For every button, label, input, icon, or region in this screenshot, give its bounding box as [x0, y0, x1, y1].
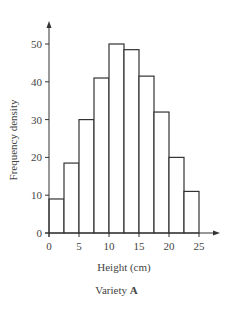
- histogram-bar: [79, 120, 94, 233]
- histogram-bar: [64, 163, 79, 233]
- histogram-bar: [169, 157, 184, 233]
- histogram-chart: 010203040500510152025 Height (cm) Freque…: [0, 0, 233, 318]
- histogram-bar: [109, 44, 124, 233]
- x-tick-label: 10: [104, 240, 116, 252]
- y-tick-label: 30: [31, 114, 43, 126]
- caption-variety-letter: A: [130, 284, 138, 296]
- histogram-bar: [124, 50, 139, 233]
- y-tick-label: 0: [37, 227, 43, 239]
- y-tick-label: 40: [31, 76, 43, 88]
- figure-caption: Variety A: [0, 284, 233, 296]
- x-axis-arrow-icon: [213, 231, 220, 236]
- x-tick-label: 5: [76, 240, 82, 252]
- histogram-bar: [184, 191, 199, 233]
- x-tick-label: 25: [194, 240, 206, 252]
- caption-text: Variety: [95, 284, 130, 296]
- x-tick-label: 15: [134, 240, 146, 252]
- y-axis-arrow-icon: [47, 21, 52, 28]
- x-tick-label: 20: [164, 240, 176, 252]
- histogram-bar: [49, 199, 64, 233]
- histogram-bar: [94, 78, 109, 233]
- x-tick-label: 0: [46, 240, 52, 252]
- histogram-bars: [49, 44, 199, 233]
- y-tick-label: 50: [31, 38, 43, 50]
- histogram-bar: [139, 76, 154, 233]
- y-tick-label: 20: [31, 151, 43, 163]
- y-tick-label: 10: [31, 189, 43, 201]
- x-axis-label: Height (cm): [97, 261, 151, 274]
- histogram-bar: [154, 112, 169, 233]
- y-axis-label: Frequency density: [7, 99, 19, 180]
